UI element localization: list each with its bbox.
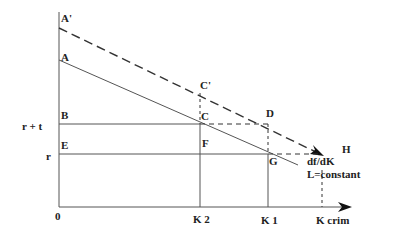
label-k2: K 2 <box>193 213 210 225</box>
label-derivative: df/dK <box>307 155 335 167</box>
label-r: r <box>46 150 51 162</box>
label-a-prime: A' <box>61 12 72 24</box>
label-r-plus-t: r + t <box>22 120 42 132</box>
label-origin: 0 <box>55 210 61 222</box>
line-a-prime-dashed <box>59 28 318 153</box>
label-d: D <box>266 107 274 119</box>
label-c-prime: C' <box>200 79 211 91</box>
label-k1: K 1 <box>261 214 278 226</box>
label-b: B <box>61 109 69 121</box>
label-a: A <box>61 51 69 63</box>
economics-diagram: A' A B E C' C D F G H df/dK L=constant r… <box>0 0 404 238</box>
label-e: E <box>61 139 68 151</box>
label-f: F <box>202 137 209 149</box>
label-g: G <box>269 155 278 167</box>
label-h: H <box>342 143 351 155</box>
line-a <box>59 60 298 165</box>
label-constraint: L=constant <box>307 168 361 180</box>
label-kcrim: K crim <box>316 214 349 226</box>
label-c: C <box>201 110 209 122</box>
